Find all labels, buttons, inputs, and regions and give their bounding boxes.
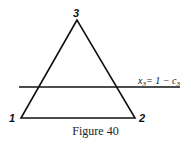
- line-label: x3= 1 − c3: [137, 75, 180, 88]
- vertex-label-2: 2: [138, 112, 145, 124]
- triangle-diagram: 3 1 2 x3= 1 − c3: [0, 0, 191, 144]
- vertex-label-1: 1: [9, 112, 15, 124]
- figure-caption: Figure 40: [0, 124, 191, 139]
- vertex-label-3: 3: [73, 7, 79, 19]
- triangle: [21, 20, 135, 118]
